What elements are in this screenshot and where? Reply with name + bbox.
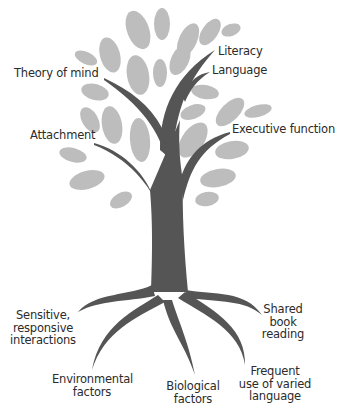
label-shared-book-reading: Shared book reading: [258, 303, 308, 341]
label-language: Language: [212, 64, 267, 77]
label-biological-factors: Biological factors: [162, 380, 224, 405]
label-theory-of-mind: Theory of mind: [14, 67, 99, 80]
tree-illustration: [0, 0, 345, 420]
label-sensitive-interactions: Sensitive, responsive interactions: [10, 309, 76, 347]
label-attachment: Attachment: [30, 129, 95, 142]
label-environmental-factors: Environmental factors: [52, 373, 132, 398]
label-frequent-varied-language: Frequent use of varied language: [238, 365, 312, 403]
label-executive-function: Executive function: [232, 123, 335, 136]
label-literacy: Literacy: [218, 45, 263, 58]
